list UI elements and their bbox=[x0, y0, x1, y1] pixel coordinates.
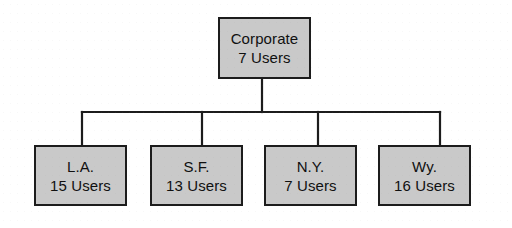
node-ny[interactable]: N.Y. 7 Users bbox=[264, 145, 357, 206]
node-sf[interactable]: S.F. 13 Users bbox=[150, 145, 243, 206]
node-la-label: L.A. bbox=[67, 157, 94, 176]
node-wy[interactable]: Wy. 16 Users bbox=[378, 145, 471, 206]
node-sf-label: S.F. bbox=[183, 157, 209, 176]
node-corporate-label: Corporate bbox=[231, 29, 299, 48]
node-corporate[interactable]: Corporate 7 Users bbox=[218, 17, 311, 79]
org-chart: Corporate 7 Users L.A. 15 Users S.F. 13 … bbox=[0, 0, 512, 228]
node-ny-users: 7 Users bbox=[284, 176, 336, 195]
node-wy-users: 16 Users bbox=[394, 176, 455, 195]
node-corporate-users: 7 Users bbox=[238, 48, 290, 67]
node-la[interactable]: L.A. 15 Users bbox=[34, 145, 127, 206]
node-ny-label: N.Y. bbox=[297, 157, 325, 176]
node-la-users: 15 Users bbox=[50, 176, 111, 195]
node-wy-label: Wy. bbox=[412, 157, 437, 176]
node-sf-users: 13 Users bbox=[166, 176, 227, 195]
